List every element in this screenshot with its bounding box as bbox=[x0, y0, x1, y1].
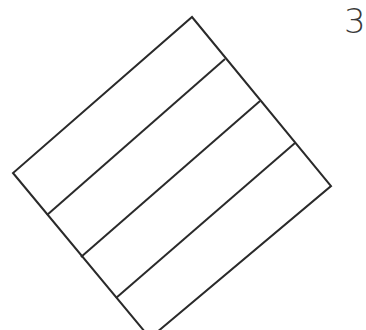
divider-lines bbox=[47, 59, 295, 298]
divider-line-1 bbox=[47, 59, 225, 215]
divider-line-2 bbox=[81, 101, 260, 257]
outer-square bbox=[13, 17, 331, 330]
divider-line-3 bbox=[116, 143, 295, 298]
figure-number-label: 3 bbox=[344, 4, 366, 38]
